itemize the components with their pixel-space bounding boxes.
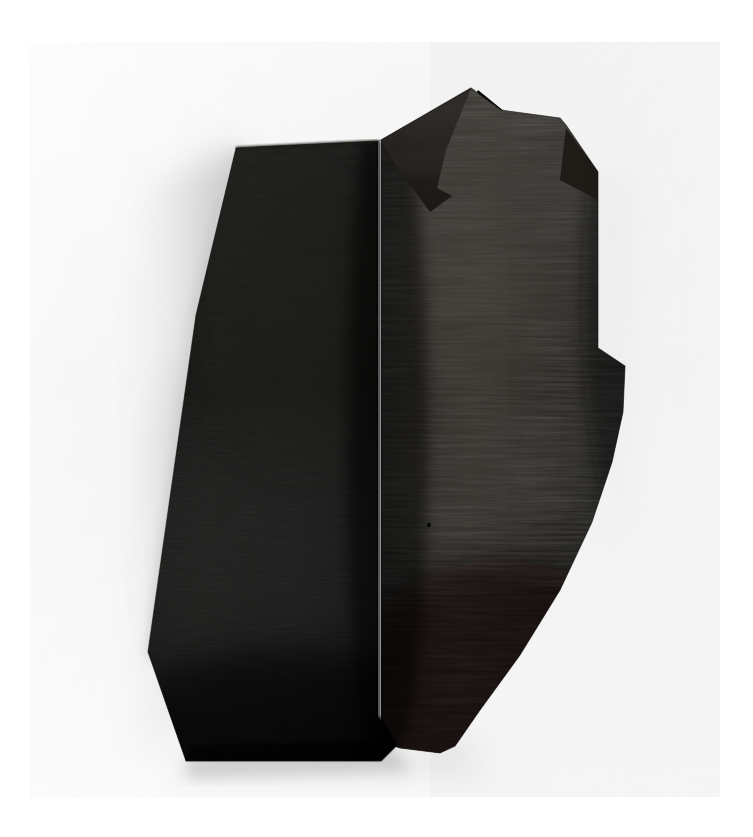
surface-mark: [427, 523, 431, 527]
screenshot-root: Untitled dark wood wall sculpture abstra…: [0, 0, 753, 837]
photograph-plate: Untitled dark wood wall sculpture abstra…: [30, 42, 720, 797]
photo-frame: Untitled dark wood wall sculpture abstra…: [0, 0, 753, 837]
right-panel-sheen-2: [458, 132, 582, 252]
sculpture-photograph: [30, 42, 720, 797]
